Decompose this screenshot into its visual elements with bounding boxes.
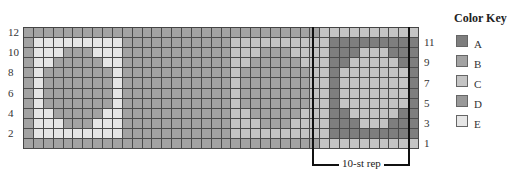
chart-cell: [202, 129, 212, 139]
chart-cell: [113, 129, 123, 139]
chart-cell: [172, 129, 182, 139]
chart-cell: [380, 48, 390, 58]
chart-cell: [54, 119, 64, 129]
color-swatch: [456, 55, 468, 67]
color-key-item-e: E: [454, 114, 507, 134]
chart-cell: [370, 38, 380, 48]
chart-cell: [271, 68, 281, 78]
chart-cell: [320, 99, 330, 109]
chart-cell: [291, 139, 301, 149]
chart-cell: [133, 48, 143, 58]
chart-cell: [350, 119, 360, 129]
chart-cell: [271, 109, 281, 119]
chart-cell: [271, 139, 281, 149]
chart-cell: [34, 58, 44, 68]
chart-cell: [251, 109, 261, 119]
chart-cell: [241, 28, 251, 38]
chart-cell: [281, 109, 291, 119]
chart-cell: [54, 129, 64, 139]
chart-cell: [370, 139, 380, 149]
chart-cell: [93, 78, 103, 88]
chart-cell: [192, 129, 202, 139]
chart-cell: [231, 109, 241, 119]
chart-cell: [113, 78, 123, 88]
chart-cell: [123, 99, 133, 109]
chart-cell: [301, 129, 311, 139]
chart-cell: [133, 38, 143, 48]
chart-cell: [54, 139, 64, 149]
chart-cell: [340, 89, 350, 99]
chart-cell: [54, 28, 64, 38]
chart-cell: [340, 119, 350, 129]
chart-cell: [261, 139, 271, 149]
color-swatch: [456, 95, 468, 107]
chart-cell: [241, 58, 251, 68]
chart-cell: [241, 129, 251, 139]
chart-cell: [182, 28, 192, 38]
chart-cell: [389, 78, 399, 88]
chart-cell: [222, 109, 232, 119]
chart-cell: [350, 89, 360, 99]
chart-cell: [389, 89, 399, 99]
chart-cell: [93, 28, 103, 38]
color-swatch: [456, 115, 468, 127]
chart-cell: [113, 99, 123, 109]
row-label-right: 3: [424, 117, 430, 129]
chart-cell: [44, 58, 54, 68]
chart-cell: [231, 28, 241, 38]
chart-cell: [54, 68, 64, 78]
chart-cell: [133, 109, 143, 119]
chart-cell: [103, 129, 113, 139]
chart-cell: [409, 78, 419, 88]
chart-cell: [162, 38, 172, 48]
chart-cell: [123, 58, 133, 68]
chart-cell: [73, 109, 83, 119]
chart-cell: [152, 28, 162, 38]
chart-cell: [251, 48, 261, 58]
chart-cell: [360, 109, 370, 119]
color-key-label: D: [474, 98, 482, 110]
chart-cell: [261, 28, 271, 38]
chart-cell: [380, 89, 390, 99]
chart-cell: [360, 38, 370, 48]
chart-cell: [123, 89, 133, 99]
chart-cell: [409, 89, 419, 99]
chart-cell: [340, 68, 350, 78]
chart-cell: [409, 28, 419, 38]
chart-cell: [271, 129, 281, 139]
repeat-label: 10-st rep: [339, 157, 384, 169]
chart-cell: [202, 58, 212, 68]
chart-cell: [172, 78, 182, 88]
color-key-label: E: [474, 118, 481, 130]
chart-cell: [192, 28, 202, 38]
chart-cell: [261, 129, 271, 139]
chart-cell: [320, 48, 330, 58]
row-label-right: 7: [424, 77, 430, 89]
chart-cell: [113, 68, 123, 78]
chart-cell: [360, 58, 370, 68]
row-label-right: 1: [424, 137, 430, 149]
chart-cell: [133, 129, 143, 139]
chart-cell: [93, 119, 103, 129]
chart-cell: [370, 78, 380, 88]
chart-cell: [24, 68, 34, 78]
chart-cell: [340, 48, 350, 58]
chart-cell: [162, 78, 172, 88]
chart-cell: [172, 28, 182, 38]
chart-cell: [113, 109, 123, 119]
chart-cell: [182, 38, 192, 48]
chart-cell: [251, 38, 261, 48]
chart-cell: [123, 119, 133, 129]
chart-cell: [291, 58, 301, 68]
chart-cell: [93, 58, 103, 68]
chart-cell: [44, 78, 54, 88]
chart-cell: [162, 68, 172, 78]
repeat-right-line: [408, 27, 410, 153]
chart-cell: [360, 68, 370, 78]
chart-cell: [64, 99, 74, 109]
color-key-label: A: [474, 38, 482, 50]
chart-cell: [330, 68, 340, 78]
chart-cell: [320, 139, 330, 149]
chart-cell: [123, 129, 133, 139]
chart-cell: [123, 48, 133, 58]
